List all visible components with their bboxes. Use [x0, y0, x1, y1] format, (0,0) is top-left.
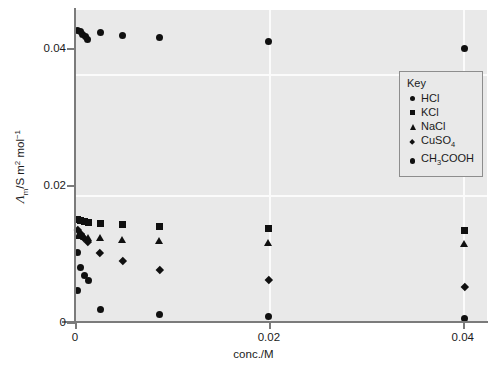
- data-point-HCl: [119, 32, 126, 39]
- legend-item-CH3COOH: CH3COOH: [407, 152, 476, 169]
- circle-marker-icon: [407, 158, 418, 164]
- y-tick-0: [67, 322, 75, 324]
- x-tick-0.02: [269, 322, 271, 329]
- data-point-CuSO4: [155, 266, 163, 274]
- x-axis-line: [62, 321, 488, 323]
- y-axis-subscript: m: [21, 189, 30, 196]
- data-point-CuSO4: [96, 249, 104, 257]
- circle-marker-icon: [407, 96, 418, 102]
- diamond-marker-icon: [407, 140, 418, 144]
- data-point-CH3COOH: [156, 311, 163, 318]
- data-point-CuSO4: [265, 276, 273, 284]
- legend-item-CuSO4: CuSO4: [407, 134, 476, 151]
- x-ticklabel-0.02: 0.02: [258, 331, 280, 343]
- legend-title: Key: [407, 77, 476, 89]
- gridline-y-0.02: [75, 195, 487, 197]
- y-axis-sup-minus1: −1: [13, 130, 22, 139]
- y-tick-0.02: [67, 185, 75, 187]
- data-point-NaCl: [96, 234, 104, 241]
- data-point-HCl: [265, 38, 272, 45]
- data-point-KCl: [85, 219, 92, 226]
- legend-label: CuSO4: [421, 134, 455, 151]
- y-tick-0.04: [67, 48, 75, 50]
- data-point-HCl: [156, 34, 163, 41]
- data-point-NaCl: [118, 236, 126, 243]
- y-ticklabel-0.04: 0.04: [44, 42, 66, 54]
- legend-box: Key HClKClNaClCuSO4CH3COOH: [399, 71, 483, 177]
- data-point-NaCl: [460, 240, 468, 247]
- legend-items: HClKClNaClCuSO4CH3COOH: [407, 92, 476, 169]
- gridline-x-0.02: [269, 10, 271, 322]
- triangle-marker-icon: [407, 124, 418, 130]
- x-axis-title: conc./M: [0, 348, 495, 360]
- legend-label: HCl: [421, 92, 439, 105]
- legend-label: KCl: [421, 106, 439, 119]
- y-axis-unit-a: /S m: [14, 165, 26, 189]
- data-point-KCl: [265, 225, 272, 232]
- x-axis-title-text: conc./M: [233, 348, 273, 360]
- data-point-HCl: [461, 45, 468, 52]
- x-tick-0: [75, 322, 77, 329]
- legend-item-HCl: HCl: [407, 92, 476, 105]
- legend-item-NaCl: NaCl: [407, 120, 476, 133]
- x-ticklabel-0.04: 0.04: [452, 331, 474, 343]
- y-axis-title: Λm/S m2 mol−1: [12, 67, 29, 267]
- y-axis-sup-2: 2: [13, 161, 22, 165]
- y-axis-unit-b: mol: [14, 139, 26, 161]
- data-point-CuSO4: [461, 283, 469, 291]
- y-axis-symbol: Λ: [12, 195, 27, 203]
- data-point-CH3COOH: [85, 277, 92, 284]
- conductivity-scatter-chart: 00.020.0400.020.04 conc./M Λm/S m2 mol−1…: [0, 0, 495, 367]
- square-marker-icon: [407, 110, 418, 116]
- data-point-CuSO4: [119, 257, 127, 265]
- data-point-NaCl: [155, 237, 163, 244]
- data-point-NaCl: [264, 239, 272, 246]
- data-point-KCl: [461, 227, 468, 234]
- x-tick-0.04: [463, 322, 465, 329]
- data-point-CH3COOH: [97, 306, 104, 313]
- data-point-HCl: [97, 29, 104, 36]
- legend-item-KCl: KCl: [407, 106, 476, 119]
- data-point-HCl: [84, 36, 91, 43]
- legend-label: CH3COOH: [421, 152, 474, 169]
- y-ticklabel-0.02: 0.02: [44, 179, 66, 191]
- y-axis-line: [74, 8, 76, 324]
- data-point-KCl: [119, 221, 126, 228]
- y-ticklabel-0: 0: [60, 316, 66, 328]
- data-point-CH3COOH: [77, 264, 84, 271]
- data-point-KCl: [156, 223, 163, 230]
- data-point-KCl: [97, 220, 104, 227]
- legend-label: NaCl: [421, 120, 445, 133]
- data-point-CH3COOH: [265, 313, 272, 320]
- x-ticklabel-0: 0: [72, 331, 78, 343]
